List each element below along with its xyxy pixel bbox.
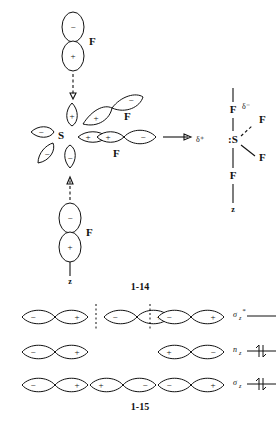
- incoming-f-top-lobe-sign: −: [70, 22, 75, 32]
- reaction-arrow: [163, 134, 191, 140]
- mo-row-n-z: − + + −: [22, 345, 224, 359]
- energy-level-sigma-z-star: σ z *: [233, 307, 276, 321]
- leaving-f-top-lobe-sign: −: [67, 213, 72, 223]
- mo-star-sigma-z-star: *: [242, 307, 246, 315]
- mo-row-sigma-z-star: − + − + − +: [22, 304, 224, 330]
- product-z-axis-label: z: [231, 205, 235, 214]
- s-lobe-lower-left-sign: −: [44, 149, 49, 159]
- equatorial-f-inner-lobe-sign: +: [105, 132, 110, 142]
- product-upper-right-fluorine-label: F: [259, 113, 266, 125]
- mo-row-sigma-z: − + + − − +: [22, 378, 224, 392]
- mo-orbital: + −: [90, 378, 156, 392]
- incoming-f-bottom-lobe-sign: +: [70, 51, 75, 61]
- orbital-right-sign: +: [210, 380, 215, 390]
- leaving-fluorine-orbital: − + F z: [59, 203, 93, 286]
- sulfur-center: + − − − S: [31, 103, 77, 168]
- reactant-z-axis-label: z: [68, 277, 72, 286]
- mo-orbital: + −: [158, 345, 224, 359]
- mo-label-sigma-z: σ: [233, 378, 238, 387]
- orbital-left-sign: −: [30, 347, 35, 357]
- equatorial-f-outer-lobe-sign: −: [140, 132, 145, 142]
- orbital-left-sign: +: [98, 380, 103, 390]
- mo-orbital: − +: [22, 345, 88, 359]
- orbital-right-sign: +: [74, 347, 79, 357]
- mo-subscript-sigma-z-star: z: [238, 315, 242, 321]
- s-lobe-up-sign: +: [69, 111, 74, 121]
- orbital-right-sign: +: [74, 312, 79, 322]
- s-lobe-right-inner-sign: +: [85, 132, 90, 142]
- diagonal-f-inner-lobe-sign: +: [93, 113, 98, 123]
- orbital-left-sign: +: [166, 347, 171, 357]
- mo-orbital: − +: [158, 378, 224, 392]
- orbital-diagram-figure: − + F + − − − S + − F +: [0, 0, 280, 427]
- mo-energy-levels: σ z * n z σ z: [233, 307, 276, 390]
- equatorial-fluorine-orbital: + − F: [97, 130, 156, 159]
- orbital-left-sign: −: [112, 312, 117, 322]
- orbital-right-sign: +: [74, 380, 79, 390]
- orbital-left-sign: −: [166, 380, 171, 390]
- orbital-right-sign: −: [142, 380, 147, 390]
- product-structure: F δ⁻ :S δ⁺ F F F z: [196, 88, 266, 214]
- product-sulfur-label: :S: [228, 133, 238, 145]
- mo-orbital: − +: [22, 310, 88, 324]
- s-lobe-left-sign: −: [38, 127, 43, 137]
- sulfur-atom-label: S: [58, 129, 64, 141]
- product-bottom-fluorine-label: F: [230, 169, 237, 181]
- figure-1-15-caption: 1-15: [131, 401, 149, 412]
- product-sulfur-charge: δ⁺: [196, 135, 204, 144]
- mo-orbital: − +: [22, 378, 88, 392]
- leaving-f-bottom-lobe-sign: +: [67, 242, 72, 252]
- orbital-right-sign: −: [210, 347, 215, 357]
- leaving-departure-arrow: [67, 177, 73, 200]
- figure-1-14-caption: 1-14: [131, 281, 149, 292]
- leaving-fluorine-label: F: [86, 226, 93, 238]
- mo-subscript-n-z: z: [238, 350, 242, 356]
- orbital-left-sign: −: [166, 312, 171, 322]
- incoming-fluorine-label: F: [89, 35, 96, 47]
- mo-subscript-sigma-z: z: [238, 383, 242, 389]
- product-lower-right-fluorine-label: F: [259, 151, 266, 163]
- diagonal-f-outer-lobe-sign: −: [128, 95, 133, 105]
- energy-level-n-z: n z: [233, 345, 276, 357]
- mo-label-sigma-z-star: σ: [233, 310, 238, 319]
- orbital-left-sign: −: [30, 380, 35, 390]
- energy-level-sigma-z: σ z: [233, 378, 276, 390]
- diagonal-fluorine-label: F: [124, 110, 131, 122]
- product-top-fluorine-label: F: [230, 103, 237, 115]
- diagonal-fluorine-orbital: + − F: [83, 95, 143, 125]
- product-top-fluorine-charge: δ⁻: [242, 102, 250, 111]
- mo-label-n-z: n: [233, 345, 237, 354]
- incoming-approach-arrow: [70, 74, 76, 99]
- orbital-left-sign: −: [30, 312, 35, 322]
- incoming-fluorine-orbital: − + F: [62, 12, 96, 71]
- equatorial-fluorine-label: F: [113, 147, 120, 159]
- s-lobe-down-sign: −: [67, 153, 72, 163]
- orbital-right-sign: +: [210, 312, 215, 322]
- mo-orbital: − +: [158, 310, 224, 324]
